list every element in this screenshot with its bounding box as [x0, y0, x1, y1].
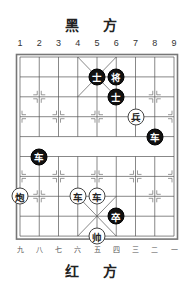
black-chariot-piece[interactable]: 车	[146, 128, 163, 145]
black-soldier-piece[interactable]: 卒	[108, 208, 125, 225]
column-number-chinese: 五	[94, 244, 101, 254]
red-soldier-piece[interactable]: 兵	[127, 108, 144, 125]
black-general-piece[interactable]: 将	[108, 68, 125, 85]
column-number-chinese: 六	[74, 244, 81, 254]
black-advisor-piece[interactable]: 士	[108, 88, 125, 105]
column-number-chinese: 七	[55, 244, 62, 254]
red-side-label: 红 方	[0, 260, 192, 280]
column-number-chinese: 二	[151, 244, 158, 254]
red-chariot-piece[interactable]: 车	[89, 188, 106, 205]
column-number-chinese: 八	[36, 244, 43, 254]
column-number-chinese: 三	[132, 244, 139, 254]
column-number-chinese: 一	[171, 244, 178, 254]
black-chariot-piece[interactable]: 车	[31, 148, 48, 165]
red-general-piece[interactable]: 帅	[89, 228, 106, 245]
red-cannon-piece[interactable]: 炮	[12, 188, 29, 205]
column-number-chinese: 九	[17, 244, 24, 254]
red-chariot-piece[interactable]: 车	[69, 188, 86, 205]
column-number-chinese: 四	[113, 244, 120, 254]
black-advisor-piece[interactable]: 士	[89, 68, 106, 85]
